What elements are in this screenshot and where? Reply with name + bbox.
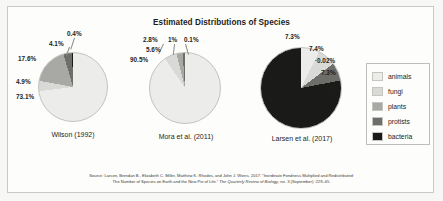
pie-disc-mora[interactable] bbox=[149, 52, 221, 124]
pie-label-mora-animals: 90.5% bbox=[130, 56, 148, 63]
pie-label-wilson-protists: 4.1% bbox=[49, 40, 64, 47]
pie-chart-wilson: 0.4% 4.1% 17.6% 4.9% 73.1% Wilson (1992) bbox=[14, 31, 132, 161]
leader-line-wilson-bacteria bbox=[70, 38, 75, 50]
source-note: Source: Larsen, Brendan B., Elizabeth C.… bbox=[8, 173, 435, 184]
pie-caption-larsen: Larsen et al. (2017) bbox=[243, 135, 361, 142]
source-note-line2-a: The Number of Species on Earth and the N… bbox=[113, 179, 220, 184]
legend-item-fungi[interactable]: fungi bbox=[372, 86, 403, 97]
legend-item-protists[interactable]: protists bbox=[372, 116, 410, 127]
pie-label-larsen-fungi: 7.4% bbox=[309, 45, 324, 52]
pie-caption-mora: Mora et al. (2011) bbox=[127, 133, 245, 140]
legend-swatch-fungi-icon bbox=[372, 87, 383, 96]
legend: animals fungi plants protists bacteria bbox=[366, 63, 430, 145]
pie-label-larsen-bacteria: 78% bbox=[326, 84, 339, 91]
pie-label-wilson-bacteria: 0.4% bbox=[67, 30, 82, 37]
source-note-line2-c: , no. 3 (September): 229–65. bbox=[278, 179, 330, 184]
leader-line-larsen-plants bbox=[315, 60, 320, 61]
legend-label-bacteria: bacteria bbox=[388, 133, 412, 140]
pie-label-wilson-plants: 17.6% bbox=[18, 55, 36, 62]
legend-item-bacteria[interactable]: bacteria bbox=[372, 131, 412, 142]
pie-caption-wilson: Wilson (1992) bbox=[14, 131, 132, 138]
pie-label-mora-fungi: 5.6% bbox=[146, 46, 161, 53]
pie-label-mora-bacteria: 0.1% bbox=[184, 36, 199, 43]
legend-swatch-animals-icon bbox=[372, 72, 383, 81]
chart-title: Estimated Distributions of Species bbox=[8, 18, 435, 27]
pie-label-wilson-animals: 73.1% bbox=[16, 93, 34, 100]
pie-label-wilson-fungi: 4.9% bbox=[16, 78, 31, 85]
figure-root: Estimated Distributions of Species 0.4% … bbox=[0, 0, 443, 201]
pie-label-larsen-protists: 7.3% bbox=[321, 69, 336, 76]
source-note-line1: Source: Larsen, Brendan B., Elizabeth C.… bbox=[89, 173, 354, 178]
pie-chart-mora: 2.8% 1% 0.1% 5.6% 90.5% Mora et al. (201… bbox=[127, 31, 245, 161]
legend-label-fungi: fungi bbox=[388, 88, 403, 95]
legend-label-plants: plants bbox=[388, 103, 406, 110]
pie-chart-larsen: 7.3% 7.4% 0.02% 7.3% 78% Larsen et al. (… bbox=[243, 31, 361, 161]
chart-card: Estimated Distributions of Species 0.4% … bbox=[7, 6, 434, 193]
legend-swatch-bacteria-icon bbox=[372, 132, 383, 141]
legend-swatch-plants-icon bbox=[372, 102, 383, 111]
pie-chart-group: 0.4% 4.1% 17.6% 4.9% 73.1% Wilson (1992)… bbox=[8, 31, 360, 161]
pie-disc-wilson[interactable] bbox=[38, 52, 108, 122]
source-note-journal: The Quarterly Review of Biology bbox=[219, 179, 278, 184]
legend-swatch-protists-icon bbox=[372, 117, 383, 126]
legend-label-protists: protists bbox=[388, 118, 410, 125]
legend-label-animals: animals bbox=[388, 73, 411, 80]
pie-label-larsen-animals: 7.3% bbox=[285, 33, 300, 40]
legend-item-animals[interactable]: animals bbox=[372, 71, 411, 82]
pie-label-mora-protists: 1% bbox=[168, 36, 177, 43]
pie-label-mora-plants: 2.8% bbox=[143, 36, 158, 43]
legend-item-plants[interactable]: plants bbox=[372, 101, 406, 112]
